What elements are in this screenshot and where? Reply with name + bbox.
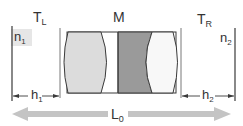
label-TR: TR (197, 11, 213, 29)
label-L0: L0 (111, 106, 124, 124)
label-n2: n2 (220, 30, 232, 47)
lens-system-diagram: TL M TR n1 n2 h1 h2 L0 (0, 0, 243, 126)
left-lens (64, 32, 107, 93)
right-lens (146, 32, 178, 93)
label-TL: TL (33, 9, 47, 27)
label-M: M (113, 9, 125, 25)
